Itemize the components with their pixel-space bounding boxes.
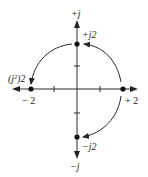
label-neg-2: − 2: [22, 95, 35, 106]
arc-plusj2-to-jsquared2: [31, 44, 72, 84]
label-neg-imag-axis: −j: [70, 161, 80, 172]
label-neg-j2: −j2: [82, 141, 97, 152]
arc-plus2-to-plusj2: [84, 44, 121, 82]
arc-plus2-to-minusj2: [83, 96, 121, 137]
point-minus-j2: [74, 134, 79, 139]
label-pos-j2: +j2: [82, 29, 97, 40]
imag-axis-up-arrow-icon: [74, 20, 80, 28]
point-plus2: [120, 86, 125, 91]
label-pos-2: + 2: [125, 95, 138, 106]
imag-axis-down-arrow-icon: [74, 151, 80, 159]
point-plus-j2: [74, 41, 79, 46]
real-axis-left-arrow-icon: [12, 86, 20, 92]
label-pos-imag-axis: +j: [71, 8, 81, 19]
label-j-squared-2: (j²)2: [8, 73, 25, 85]
real-axis-right-arrow-icon: [130, 86, 138, 92]
point-j-squared-2: [28, 86, 33, 91]
complex-plane-diagram: +j −j +j2 −j2 (j²)2 − 2 + 2: [0, 0, 148, 177]
